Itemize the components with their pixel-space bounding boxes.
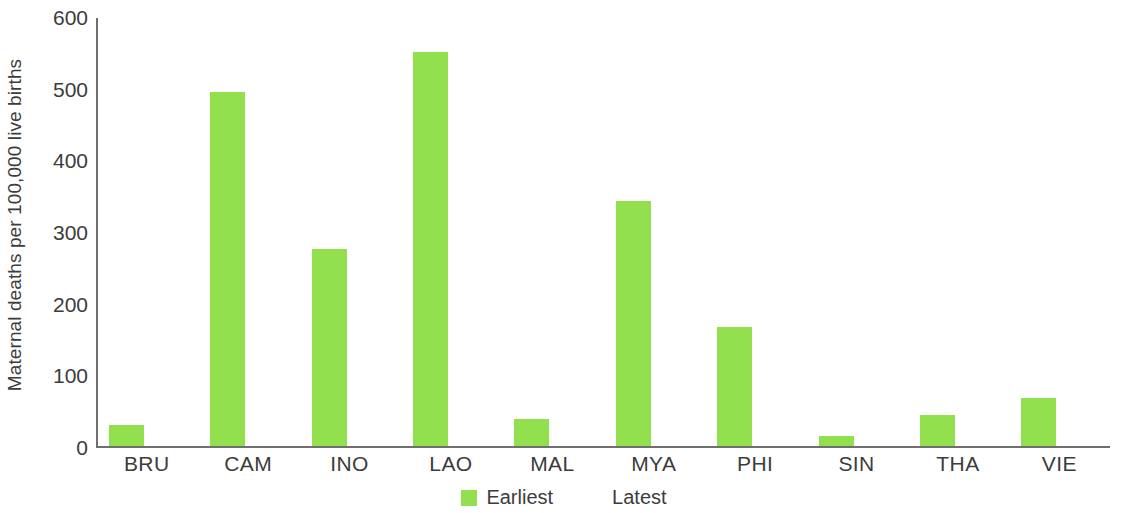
- bar-group: [1009, 18, 1110, 446]
- x-tick-label-mya: MYA: [603, 452, 704, 480]
- legend-item-earliest[interactable]: Earliest: [461, 486, 553, 509]
- legend-swatch-latest: [587, 490, 603, 506]
- legend-swatch-earliest: [461, 490, 477, 506]
- bar-lao-earliest[interactable]: [413, 52, 448, 446]
- x-tick-label-sin: SIN: [806, 452, 907, 480]
- bar-sin-latest[interactable]: [860, 442, 895, 446]
- x-tick-label-vie: VIE: [1009, 452, 1110, 480]
- bar-bru-earliest[interactable]: [109, 425, 144, 446]
- x-tick-label-ino: INO: [299, 452, 400, 480]
- y-tick-label: 400: [30, 149, 88, 173]
- y-axis-title: Maternal deaths per 100,000 live births: [0, 0, 30, 450]
- bar-group: [603, 18, 704, 446]
- legend-label-latest: Latest: [612, 486, 666, 509]
- maternal-mortality-bar-chart: Maternal deaths per 100,000 live births …: [0, 0, 1128, 513]
- y-tick-label: 600: [30, 6, 88, 30]
- bar-vie-earliest[interactable]: [1021, 398, 1056, 447]
- bar-mal-latest[interactable]: [555, 428, 590, 447]
- x-axis-line: [96, 446, 1110, 448]
- bar-group: [907, 18, 1008, 446]
- bar-group: [299, 18, 400, 446]
- bar-cam-earliest[interactable]: [210, 92, 245, 447]
- bar-phi-latest[interactable]: [758, 359, 793, 447]
- legend-label-earliest: Earliest: [486, 486, 553, 509]
- y-tick-label: 500: [30, 78, 88, 102]
- bar-group: [704, 18, 805, 446]
- x-tick-label-lao: LAO: [400, 452, 501, 480]
- bars-layer: [96, 18, 1110, 446]
- y-axis-title-text: Maternal deaths per 100,000 live births: [4, 59, 26, 391]
- bar-lao-latest[interactable]: [454, 311, 489, 447]
- legend-item-latest[interactable]: Latest: [587, 486, 666, 509]
- bar-group: [502, 18, 603, 446]
- bar-group: [400, 18, 501, 446]
- y-tick-label: 100: [30, 364, 88, 388]
- x-tick-label-tha: THA: [907, 452, 1008, 480]
- y-tick-label: 0: [30, 436, 88, 460]
- x-tick-label-cam: CAM: [197, 452, 298, 480]
- bar-phi-earliest[interactable]: [717, 327, 752, 446]
- x-tick-label-mal: MAL: [502, 452, 603, 480]
- bar-mal-earliest[interactable]: [514, 419, 549, 446]
- bar-group: [96, 18, 197, 446]
- chart-legend: EarliestLatest: [0, 486, 1128, 509]
- y-axis-tick-labels: 0100200300400500600: [30, 0, 88, 466]
- bar-group: [806, 18, 907, 446]
- bar-tha-latest[interactable]: [961, 420, 996, 446]
- bar-group: [197, 18, 298, 446]
- bar-mya-earliest[interactable]: [616, 201, 651, 447]
- bar-mya-latest[interactable]: [657, 268, 692, 447]
- bar-ino-latest[interactable]: [353, 316, 388, 446]
- x-tick-label-bru: BRU: [96, 452, 197, 480]
- bar-vie-latest[interactable]: [1062, 416, 1097, 447]
- bar-tha-earliest[interactable]: [920, 415, 955, 446]
- bar-bru-latest[interactable]: [150, 427, 185, 446]
- x-tick-label-phi: PHI: [704, 452, 805, 480]
- bar-sin-earliest[interactable]: [819, 436, 854, 446]
- bar-cam-latest[interactable]: [251, 329, 286, 447]
- plot-area: [96, 18, 1110, 448]
- x-axis-tick-labels: BRUCAMINOLAOMALMYAPHISINTHAVIE: [96, 452, 1110, 480]
- bar-ino-earliest[interactable]: [312, 249, 347, 446]
- y-tick-label: 300: [30, 221, 88, 245]
- y-tick-label: 200: [30, 293, 88, 317]
